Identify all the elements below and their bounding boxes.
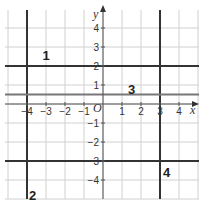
y-tick-label: 1 (93, 80, 99, 91)
y-tick-label: −3 (88, 156, 100, 167)
region-label-2: 2 (29, 188, 36, 200)
x-axis-label: x (189, 103, 196, 117)
region-label-4: 4 (163, 165, 171, 180)
y-axis-arrow-icon (100, 5, 106, 12)
origin-label: O (93, 101, 102, 115)
y-axis-label: y (92, 7, 99, 21)
region-labels: 1234 (29, 48, 171, 200)
y-tick-label: −4 (88, 175, 100, 186)
x-tick-label: −2 (59, 106, 71, 117)
x-tick-label: −1 (78, 106, 90, 117)
x-tick-label: −4 (21, 106, 33, 117)
y-tick-label: 2 (93, 61, 99, 72)
x-tick-label: −3 (40, 106, 52, 117)
y-tick-label: 3 (93, 42, 99, 53)
x-tick-label: 3 (157, 106, 163, 117)
y-tick-label: −1 (88, 118, 100, 129)
x-tick-label: 1 (119, 106, 125, 117)
y-tick-label: 4 (93, 23, 99, 34)
x-tick-label: 2 (138, 106, 144, 117)
region-label-1: 1 (42, 48, 49, 63)
region-label-3: 3 (128, 82, 135, 97)
y-tick-label: −2 (88, 137, 100, 148)
coordinate-plane: xyO −4−3−2−112344321−1−2−3−4 1234 (0, 0, 201, 200)
x-tick-label: 4 (176, 106, 182, 117)
